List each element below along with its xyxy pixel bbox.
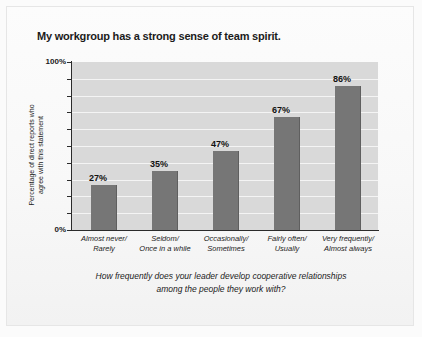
bar-value-0: 27% [78, 173, 118, 183]
x-category-label-4: Very frequently/ Almost always [309, 234, 387, 254]
y-tick-label-0: 0% [54, 225, 66, 234]
y-tick-0 [67, 230, 72, 231]
x-axis-caption: How frequently does your leader develop … [56, 270, 386, 296]
bar-almost-never-rarely [91, 185, 117, 230]
figure-page: My workgroup has a strong sense of team … [0, 0, 422, 337]
gridline-60 [72, 129, 378, 130]
x-axis-caption-line-2: among the people they work with? [56, 283, 386, 296]
bar-chart-figure: My workgroup has a strong sense of team … [0, 0, 422, 337]
x-category-label-4-line-2: Almost always [309, 244, 387, 254]
bar-very-frequently-always [335, 86, 361, 230]
y-tick-70 [67, 112, 72, 113]
x-axis-caption-line-1: How frequently does your leader develop … [56, 270, 386, 283]
y-tick-40 [67, 163, 72, 164]
gridline-70 [72, 112, 378, 113]
chart-title: My workgroup has a strong sense of team … [37, 30, 281, 42]
y-axis-title-line-1: Percentage of direct reports who [27, 80, 36, 230]
y-axis-title-line-2: agree with this statement [36, 80, 45, 230]
y-tick-50 [67, 146, 72, 147]
gridline-80 [72, 96, 378, 97]
x-axis-line [71, 230, 379, 231]
bar-value-4: 86% [322, 74, 362, 84]
bar-seldom-once-in-a-while [152, 171, 178, 230]
bar-value-2: 47% [200, 139, 240, 149]
y-tick-label-100: 100% [46, 57, 66, 66]
y-tick-20 [67, 196, 72, 197]
y-tick-60 [67, 129, 72, 130]
bar-fairly-often-usually [274, 117, 300, 230]
bar-value-1: 35% [139, 159, 179, 169]
x-category-label-4-line-1: Very frequently/ [309, 234, 387, 244]
y-tick-30 [67, 180, 72, 181]
bar-value-3: 67% [261, 105, 301, 115]
bar-occasionally-sometimes [213, 151, 239, 230]
y-tick-90 [67, 79, 72, 80]
y-tick-80 [67, 96, 72, 97]
y-axis-title: Percentage of direct reports who agree w… [27, 80, 45, 230]
y-tick-100 [67, 62, 72, 63]
y-tick-10 [67, 213, 72, 214]
